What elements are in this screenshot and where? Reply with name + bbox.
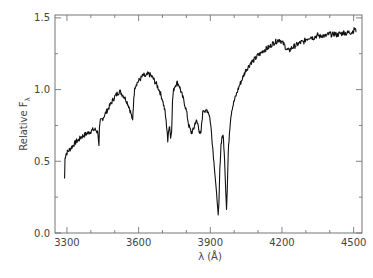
y-axis-label: Relative Fλ — [18, 97, 32, 150]
x-tick-label: 3600 — [126, 237, 151, 248]
x-tick-label: 3900 — [198, 237, 223, 248]
y-axis-label-text: Relative F — [18, 101, 29, 151]
y-axis-label-subscript: λ — [24, 97, 32, 101]
x-tick-label: 3300 — [54, 237, 79, 248]
x-tick-label: 4200 — [269, 237, 294, 248]
y-tick-label: 1.5 — [34, 12, 50, 23]
plot-frame — [55, 15, 362, 233]
spectrum-chart: 33003600390042004500 0.00.51.01.5 λ (Å) … — [0, 0, 373, 278]
x-axis-label: λ (Å) — [198, 250, 222, 262]
spectrum-line — [65, 28, 356, 215]
y-tick-label: 0.0 — [34, 228, 50, 239]
plot-border — [55, 15, 362, 233]
y-tick-label: 0.5 — [34, 156, 50, 167]
x-axis: 33003600390042004500 — [54, 15, 366, 248]
x-tick-label: 4500 — [341, 237, 366, 248]
y-tick-label: 1.0 — [34, 84, 50, 95]
